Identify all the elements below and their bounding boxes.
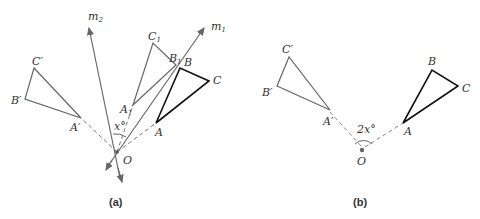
label-angle-x: x° [114, 120, 126, 133]
triangle-ABC-b [403, 70, 458, 123]
reflection-diagram: m2 m1 C1 B1 B C A A1 C′ B′ A′ x° O (a) C… [0, 0, 480, 219]
angle-arc-2x [355, 140, 372, 144]
label-Bprime-b: B′ [261, 86, 273, 99]
caption-a: (a) [109, 196, 123, 208]
angle-arc-x [113, 134, 126, 137]
point-O [115, 150, 119, 154]
label-A-b: A [403, 125, 412, 138]
label-Bprime: B′ [10, 94, 22, 107]
label-Aprime-b: A′ [322, 115, 334, 128]
panel-a: m2 m1 C1 B1 B C A A1 C′ B′ A′ x° O (a) [10, 10, 226, 208]
label-B-b: B [427, 55, 436, 68]
triangle-AprimeBprimeCprime [25, 68, 81, 118]
label-m2: m2 [88, 10, 103, 24]
label-C: C [213, 74, 222, 87]
panel-b: C′ B′ A′ B C A 2x° O (b) [261, 43, 471, 208]
label-Cprime: C′ [32, 55, 43, 68]
label-A1: A1 [119, 103, 132, 117]
line-m1-bottom-arrow [106, 160, 112, 170]
triangle-AprimeBprimeCprime-b [277, 57, 330, 110]
label-Aprime: A′ [69, 121, 81, 134]
label-C-b: C [462, 82, 471, 95]
label-A: A [154, 126, 163, 139]
caption-b: (b) [353, 196, 367, 208]
label-m1: m1 [211, 20, 226, 34]
label-O: O [123, 154, 132, 167]
label-Cprime-b: C′ [282, 43, 293, 56]
line-m2-bottom-arrow [118, 168, 122, 182]
label-B: B [183, 56, 192, 69]
label-B1: B1 [168, 52, 182, 66]
label-angle-2x: 2x° [356, 123, 376, 136]
label-C1: C1 [148, 30, 161, 44]
point-O-b [360, 148, 364, 152]
label-O-b: O [357, 155, 366, 168]
